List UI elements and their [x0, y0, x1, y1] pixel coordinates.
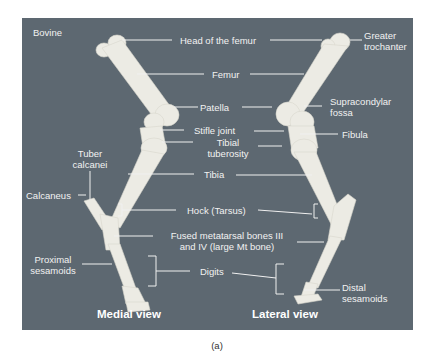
- label-distal-sesamoids: Distal sesamoids: [342, 282, 387, 304]
- label-tibial-tuberosity: Tibial tuberosity: [200, 137, 256, 159]
- figure-panel: Bovine Head of the femur Greater trochan…: [22, 18, 413, 330]
- label-tuber-calcanei: Tuber calcanei: [68, 148, 112, 170]
- label-fused-metatarsal: Fused metatarsal bones III and IV (large…: [160, 230, 294, 252]
- label-supracondylar-fossa: Supracondylar fossa: [330, 96, 391, 118]
- label-tibia: Tibia: [204, 169, 224, 180]
- label-digits: Digits: [200, 266, 224, 277]
- medial-view-title: Medial view: [97, 308, 161, 320]
- label-patella: Patella: [200, 102, 229, 113]
- label-hock-tarsus: Hock (Tarsus): [187, 205, 246, 216]
- lateral-view-title: Lateral view: [252, 308, 318, 320]
- figure-caption: (a): [0, 340, 434, 351]
- label-calcaneus: Calcaneus: [26, 190, 71, 201]
- label-greater-trochanter: Greater trochanter: [364, 30, 407, 52]
- label-head-of-femur: Head of the femur: [180, 35, 256, 46]
- label-fibula: Fibula: [342, 129, 368, 140]
- label-proximal-sesamoids: Proximal sesamoids: [26, 254, 80, 276]
- species-label: Bovine: [33, 27, 62, 38]
- label-stifle-joint: Stifle joint: [194, 125, 235, 136]
- label-femur: Femur: [212, 69, 239, 80]
